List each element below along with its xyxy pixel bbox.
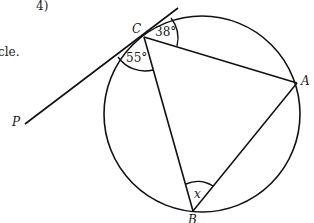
question-number: 4): [36, 0, 48, 13]
angle-label-x: x: [194, 187, 201, 201]
angle-arc-x: [186, 181, 213, 186]
chord-AB: [193, 83, 297, 211]
point-label-P: P: [11, 115, 21, 129]
chord-CB: [144, 37, 193, 211]
question-text-fragment: cle.: [0, 45, 19, 59]
chord-CA: [144, 37, 297, 83]
circle-theorem-diagram: 4) cle. 38° 55° x C A B P: [0, 0, 314, 223]
angle-label-55: 55°: [126, 51, 147, 65]
point-label-A: A: [300, 74, 310, 88]
circle: [104, 16, 300, 212]
angle-label-38: 38°: [155, 25, 176, 39]
point-label-B: B: [187, 213, 197, 223]
point-label-C: C: [132, 22, 141, 36]
